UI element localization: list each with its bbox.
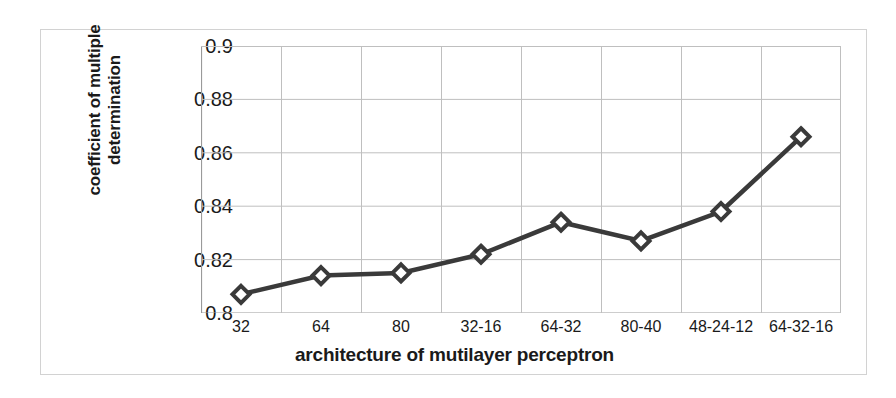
x-axis-tick-label: 80-40 xyxy=(621,318,662,336)
data-point-marker xyxy=(233,286,250,303)
x-axis-tick-label: 32 xyxy=(232,318,250,336)
vertical-gridlines xyxy=(202,46,841,313)
plot-area xyxy=(201,46,841,313)
chart-figure: coefficient of multiple determination 0.… xyxy=(0,0,896,398)
data-point-marker xyxy=(313,267,330,284)
data-point-marker xyxy=(393,264,410,281)
x-axis-tick-label: 64 xyxy=(312,318,330,336)
x-axis-tick-label: 64-32-16 xyxy=(769,318,833,336)
x-axis-tick-label: 32-16 xyxy=(461,318,502,336)
chart-frame: coefficient of multiple determination 0.… xyxy=(40,29,867,375)
data-point-marker xyxy=(633,232,650,249)
y-axis-title: coefficient of multiple determination xyxy=(85,0,125,220)
x-axis-tick-label: 48-24-12 xyxy=(689,318,753,336)
y-axis-title-line-1: coefficient of multiple xyxy=(85,0,105,220)
x-axis-tick-labels: 32648032-1664-3280-4048-24-1264-32-16 xyxy=(201,318,841,344)
data-point-marker xyxy=(553,214,570,231)
line-chart-svg xyxy=(201,46,841,313)
x-axis-title: architecture of mutilayer perceptron xyxy=(41,344,868,366)
y-axis-title-line-2: determination xyxy=(105,0,125,220)
data-point-marker xyxy=(473,246,490,263)
x-axis-tick-label: 80 xyxy=(392,318,410,336)
x-axis-tick-label: 64-32 xyxy=(541,318,582,336)
